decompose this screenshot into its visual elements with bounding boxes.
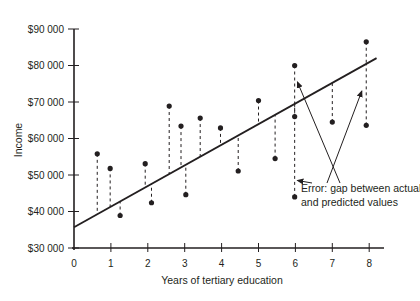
- annotation-text: and predicted values: [301, 196, 398, 208]
- y-tick-label: $30 000: [28, 243, 65, 254]
- data-point: [364, 123, 369, 128]
- data-point: [364, 39, 369, 44]
- x-axis-ticks: 012345678: [71, 243, 372, 269]
- data-point: [95, 151, 100, 156]
- data-point: [292, 114, 297, 119]
- x-tick-label: 8: [366, 258, 372, 269]
- data-point: [236, 168, 241, 173]
- data-point: [330, 119, 335, 124]
- data-point: [143, 161, 148, 166]
- y-tick-label: $90 000: [28, 24, 65, 35]
- x-tick-label: 1: [108, 258, 114, 269]
- x-tick-label: 4: [219, 258, 225, 269]
- data-point: [167, 103, 172, 108]
- x-axis-label: Years of tertiary education: [161, 274, 283, 286]
- annotation-arrow: [297, 82, 340, 183]
- y-tick-label: $50 000: [28, 170, 65, 181]
- data-point: [292, 194, 297, 199]
- data-point: [198, 115, 203, 120]
- data-point: [218, 125, 223, 130]
- annotation-arrow: [327, 91, 362, 183]
- data-point: [273, 156, 278, 161]
- y-axis-ticks: $30 000$40 000$50 000$60 000$70 000$80 0…: [28, 24, 79, 254]
- x-tick-label: 5: [256, 258, 262, 269]
- scatter-chart: $30 000$40 000$50 000$60 000$70 000$80 0…: [0, 0, 420, 301]
- data-point: [149, 200, 154, 205]
- x-tick-label: 0: [71, 258, 77, 269]
- data-point: [183, 192, 188, 197]
- data-point: [256, 98, 261, 103]
- y-tick-label: $60 000: [28, 133, 65, 144]
- y-tick-label: $80 000: [28, 60, 65, 71]
- annotation-text: Error: gap between actual: [301, 182, 420, 194]
- data-point: [292, 63, 297, 68]
- x-tick-label: 3: [182, 258, 188, 269]
- y-tick-label: $40 000: [28, 206, 65, 217]
- y-axis-label: Income: [12, 123, 24, 158]
- data-point: [108, 166, 113, 171]
- data-point: [178, 123, 183, 128]
- x-tick-label: 2: [145, 258, 151, 269]
- x-tick-label: 6: [293, 258, 299, 269]
- y-tick-label: $70 000: [28, 97, 65, 108]
- error-annotation: Error: gap between actualand predicted v…: [297, 82, 420, 208]
- x-tick-label: 7: [330, 258, 336, 269]
- data-point: [118, 213, 123, 218]
